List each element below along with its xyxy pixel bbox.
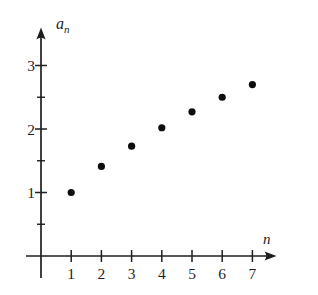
- x-tick-label: 6: [218, 265, 226, 282]
- x-tick-label: 3: [128, 265, 136, 282]
- data-point: [219, 94, 226, 101]
- data-point: [128, 143, 135, 150]
- x-axis-label: n: [263, 232, 271, 247]
- y-tick-label: 3: [27, 57, 35, 74]
- chart-canvas: 1234567123: [0, 0, 318, 295]
- x-axis-arrowhead-icon: [265, 251, 277, 260]
- sequence-scatter-figure: 1234567123 an n: [0, 0, 318, 295]
- y-axis-label-subscript: n: [64, 23, 70, 35]
- data-point: [68, 189, 75, 196]
- data-point: [98, 163, 105, 170]
- data-point: [188, 108, 195, 115]
- x-tick-label: 1: [67, 265, 75, 282]
- y-tick-label: 2: [27, 121, 35, 138]
- y-tick-label: 1: [27, 184, 35, 201]
- y-axis-arrowhead-icon: [36, 27, 45, 39]
- x-tick-label: 2: [98, 265, 106, 282]
- x-tick-label: 5: [188, 265, 196, 282]
- data-point: [249, 81, 256, 88]
- data-point: [158, 124, 165, 131]
- x-tick-label: 4: [158, 265, 166, 282]
- y-axis-label-base: a: [56, 15, 64, 32]
- y-axis-label: an: [56, 16, 70, 35]
- x-tick-label: 7: [249, 265, 257, 282]
